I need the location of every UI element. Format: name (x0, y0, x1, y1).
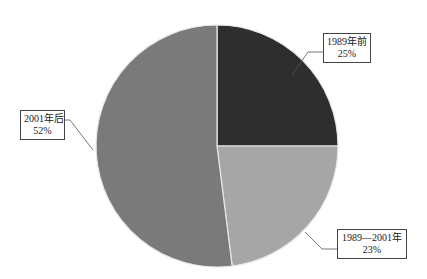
data-label-2001-after: 2001年后 52% (20, 110, 65, 140)
leader-line-1989-2001 (305, 232, 337, 249)
data-label-value: 25% (327, 48, 367, 60)
pie-slice-0 (217, 25, 338, 146)
data-label-1989-2001: 1989—2001年 23% (337, 229, 407, 259)
data-label-value: 23% (341, 244, 403, 256)
data-label-name: 2001年后 (24, 113, 61, 125)
data-label-value: 52% (24, 125, 61, 137)
pie-slice-2 (96, 25, 232, 267)
data-label-name: 1989年前 (327, 36, 367, 48)
pie-slice-1 (217, 146, 338, 266)
data-label-name: 1989—2001年 (341, 232, 403, 244)
data-label-1989-before: 1989年前 25% (323, 33, 371, 63)
leader-line-2001-after (64, 120, 93, 150)
